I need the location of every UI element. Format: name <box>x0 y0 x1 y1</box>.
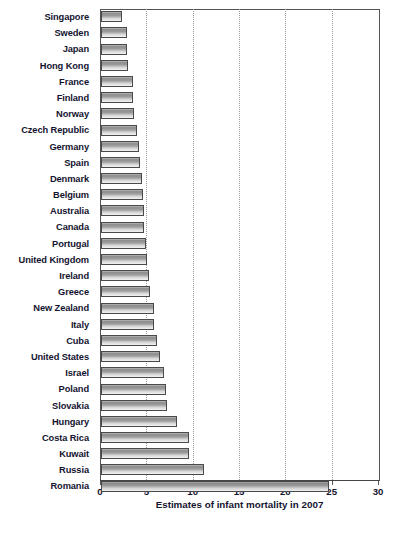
category-label: Romania <box>0 478 94 494</box>
bar-row <box>101 300 378 316</box>
bar <box>101 27 127 38</box>
bar-series <box>101 9 378 480</box>
x-axis-title: Estimates of infant mortality in 2007 <box>100 499 379 510</box>
bar-row <box>101 430 378 446</box>
category-label: Hungary <box>0 414 94 430</box>
bar <box>101 92 133 103</box>
bar-row <box>101 58 378 74</box>
bar <box>101 432 189 443</box>
bar-row <box>101 381 378 397</box>
bar <box>101 400 167 411</box>
category-label: Singapore <box>0 9 94 25</box>
bar-row <box>101 236 378 252</box>
bar-row <box>101 478 378 494</box>
bar <box>101 189 143 200</box>
bar <box>101 448 189 459</box>
bar <box>101 416 177 427</box>
bar-row <box>101 349 378 365</box>
bar <box>101 60 128 71</box>
category-axis-labels: SingaporeSwedenJapanHong KongFranceFinla… <box>0 9 94 495</box>
bar-row <box>101 9 378 25</box>
category-label: Greece <box>0 284 94 300</box>
bar <box>101 481 329 492</box>
plot-wrapper: SingaporeSwedenJapanHong KongFranceFinla… <box>0 0 400 536</box>
bar <box>101 108 134 119</box>
x-tick <box>378 481 379 485</box>
category-label: United States <box>0 349 94 365</box>
category-label: Denmark <box>0 171 94 187</box>
category-label: Russia <box>0 462 94 478</box>
bar <box>101 76 133 87</box>
bar-row <box>101 219 378 235</box>
category-label: Spain <box>0 155 94 171</box>
bar <box>101 319 154 330</box>
bar <box>101 141 139 152</box>
category-label: Belgium <box>0 187 94 203</box>
category-label: Germany <box>0 139 94 155</box>
bar-row <box>101 333 378 349</box>
bar-row <box>101 187 378 203</box>
bar-row <box>101 90 378 106</box>
bar <box>101 303 154 314</box>
bar-row <box>101 41 378 57</box>
bar-row <box>101 268 378 284</box>
category-label: Canada <box>0 219 94 235</box>
category-label: Cuba <box>0 333 94 349</box>
category-label: Israel <box>0 365 94 381</box>
bar-row <box>101 284 378 300</box>
bar <box>101 44 127 55</box>
category-label: Australia <box>0 203 94 219</box>
category-label: France <box>0 74 94 90</box>
bar-row <box>101 25 378 41</box>
bar-row <box>101 398 378 414</box>
bar-row <box>101 365 378 381</box>
bar-row <box>101 203 378 219</box>
bar-row <box>101 122 378 138</box>
bar-row <box>101 74 378 90</box>
bar-row <box>101 106 378 122</box>
bar-row <box>101 252 378 268</box>
bar-row <box>101 462 378 478</box>
category-label: United Kingdom <box>0 252 94 268</box>
category-label: New Zealand <box>0 300 94 316</box>
category-label: Italy <box>0 317 94 333</box>
category-label: Portugal <box>0 236 94 252</box>
category-label: Norway <box>0 106 94 122</box>
bar-row <box>101 139 378 155</box>
bar <box>101 11 122 22</box>
bar <box>101 335 157 346</box>
category-label: Czech Republic <box>0 122 94 138</box>
bar <box>101 205 144 216</box>
category-label: Kuwait <box>0 446 94 462</box>
category-label: Costa Rica <box>0 430 94 446</box>
bar <box>101 270 149 281</box>
bar-chart: SingaporeSwedenJapanHong KongFranceFinla… <box>0 0 400 536</box>
bar-row <box>101 171 378 187</box>
bar <box>101 125 137 136</box>
category-label: Slovakia <box>0 398 94 414</box>
bar-row <box>101 317 378 333</box>
bar-row <box>101 414 378 430</box>
category-label: Finland <box>0 90 94 106</box>
category-label: Hong Kong <box>0 58 94 74</box>
bar <box>101 367 164 378</box>
bar <box>101 464 204 475</box>
category-label: Poland <box>0 381 94 397</box>
bar <box>101 384 166 395</box>
bar-row <box>101 446 378 462</box>
bar <box>101 238 146 249</box>
bar <box>101 222 144 233</box>
bar-row <box>101 155 378 171</box>
bar <box>101 286 150 297</box>
category-label: Ireland <box>0 268 94 284</box>
bar <box>101 157 140 168</box>
bar <box>101 254 147 265</box>
category-label: Sweden <box>0 25 94 41</box>
category-label: Japan <box>0 41 94 57</box>
bar <box>101 173 142 184</box>
bar <box>101 351 160 362</box>
